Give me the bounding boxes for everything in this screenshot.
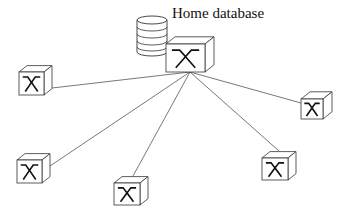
home-database-label: Home database: [172, 5, 264, 22]
connection-line: [190, 72, 301, 103]
nodes: [17, 37, 332, 205]
node-bottom-center: [114, 177, 148, 205]
node-bottom-right: [262, 152, 296, 180]
node-bottom-left: [17, 154, 50, 183]
connection-line: [133, 72, 190, 176]
node-left: [19, 66, 52, 95]
home-node: [166, 37, 214, 72]
database-cylinder-icon: [137, 16, 167, 56]
connection-line: [190, 72, 279, 151]
node-right: [301, 92, 332, 119]
network-diagram: [0, 0, 349, 215]
